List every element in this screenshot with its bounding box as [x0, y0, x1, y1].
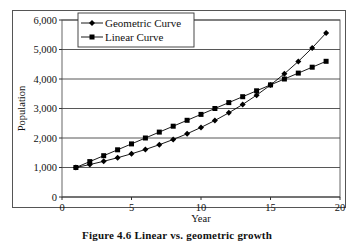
data-point-square — [73, 165, 78, 170]
data-point-square — [240, 94, 245, 99]
legend-label: Geometric Curve — [105, 17, 181, 29]
legend-label: Linear Curve — [105, 31, 163, 43]
x-tick-label: 15 — [265, 202, 276, 213]
data-point-square — [268, 82, 273, 87]
data-point-diamond — [129, 151, 135, 157]
data-point-square — [115, 147, 120, 152]
x-tick-label: 0 — [59, 202, 64, 213]
data-point-square — [226, 100, 231, 105]
data-point-square — [324, 59, 329, 64]
data-point-diamond — [198, 124, 204, 130]
data-point-square — [171, 124, 176, 129]
x-tick-label: 20 — [335, 202, 346, 213]
x-axis-label: Year — [191, 213, 211, 224]
series-line-diamond — [76, 33, 326, 168]
data-point-square — [87, 159, 92, 164]
data-point-diamond — [212, 117, 218, 123]
y-tick-label: 1,000 — [33, 162, 57, 173]
data-point-diamond — [170, 137, 176, 143]
y-tick-label: 0 — [52, 192, 57, 203]
data-point-diamond — [184, 131, 190, 137]
data-point-square — [212, 106, 217, 111]
data-point-diamond — [156, 142, 162, 148]
data-point-square — [254, 88, 259, 93]
x-tick-label: 5 — [129, 202, 134, 213]
data-point-square — [143, 136, 148, 141]
data-point-diamond — [115, 155, 121, 161]
y-tick-label: 4,000 — [33, 74, 57, 85]
y-tick-label: 6,000 — [33, 15, 57, 26]
y-tick-label: 3,000 — [33, 103, 57, 114]
data-point-square — [101, 153, 106, 158]
data-point-diamond — [240, 101, 246, 107]
x-tick-label: 10 — [196, 202, 207, 213]
y-axis-label: Population — [16, 85, 27, 131]
data-point-diamond — [101, 158, 107, 164]
data-point-square — [310, 65, 315, 70]
data-point-square — [185, 118, 190, 123]
figure-caption: Figure 4.6 Linear vs. geometric growth — [0, 229, 354, 241]
data-point-square — [296, 71, 301, 76]
y-tick-label: 5,000 — [33, 44, 57, 55]
data-point-square — [199, 112, 204, 117]
data-point-square — [157, 130, 162, 135]
data-point-diamond — [142, 146, 148, 152]
data-point-square — [129, 141, 134, 146]
line-chart: 01,0002,0003,0004,0005,0006,00005101520Y… — [0, 0, 354, 225]
y-tick-label: 2,000 — [33, 133, 57, 144]
data-point-square — [282, 77, 287, 82]
data-point-diamond — [226, 110, 232, 116]
legend-square-icon — [90, 35, 95, 40]
